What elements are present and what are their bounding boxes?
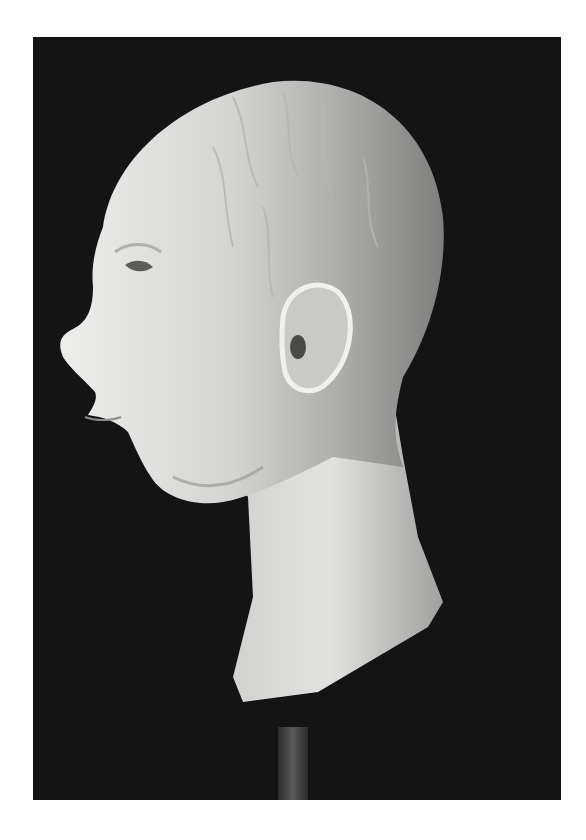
- sculpture-head-illustration: [33, 37, 561, 800]
- head: [60, 81, 444, 503]
- ear-canal: [290, 335, 306, 359]
- stand-rod: [278, 727, 308, 800]
- sculpture-photo: Grayscale photograph of a sculpted clay …: [33, 37, 561, 800]
